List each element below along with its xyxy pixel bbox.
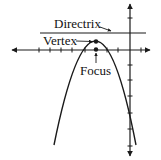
directrix-pointer-arrow: [100, 27, 111, 31]
directrix-label: Directrix: [54, 16, 101, 31]
x-axis: [12, 48, 150, 53]
parabola-curve: [54, 41, 136, 145]
focus-label: Focus: [80, 63, 111, 78]
parabola-diagram: Directrix Vertex Focus: [0, 0, 161, 160]
y-axis: [128, 4, 133, 156]
vertex-point: [94, 39, 98, 43]
vertex-label: Vertex: [43, 33, 77, 48]
vertex-pointer-arrow: [76, 41, 92, 42]
focus-point: [94, 47, 98, 51]
